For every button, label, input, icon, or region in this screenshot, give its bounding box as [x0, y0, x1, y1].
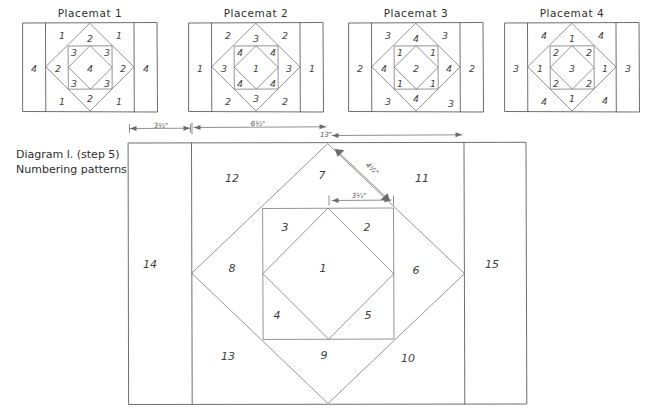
line-art-layer	[0, 0, 655, 413]
dimension-lines	[130, 123, 463, 205]
placemat-1-artwork	[23, 23, 158, 113]
diagram-caption-line1: Diagram l. (step 5)	[16, 148, 120, 162]
placemat-3-artwork	[349, 23, 484, 113]
main-diagram-artwork	[129, 142, 527, 404]
placemat-2-artwork	[189, 23, 324, 113]
placemat-4-artwork	[505, 23, 640, 113]
diagram-caption-line2: Numbering patterns	[16, 163, 127, 177]
diagram-sheet: Placemat 1 4 4 1 1 1 1 2 2 2 2 3 3 3 3 4…	[0, 0, 655, 413]
